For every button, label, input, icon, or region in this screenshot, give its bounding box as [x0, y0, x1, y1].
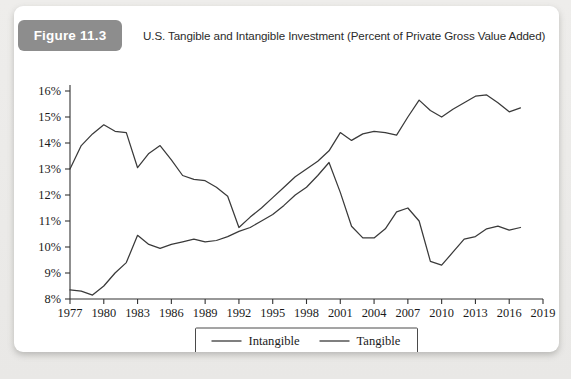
figure-title: U.S. Tangible and Intangible Investment …	[143, 29, 545, 42]
x-axis-tick-label: 2007	[395, 306, 420, 320]
y-axis-tick-label: 15%	[38, 110, 61, 124]
series-line-tangible	[70, 163, 520, 296]
chart-legend: IntangibleTangible	[196, 328, 418, 352]
legend-label-tangible: Tangible	[357, 334, 401, 348]
figure-header: Figure 11.3 U.S. Tangible and Intangible…	[14, 18, 559, 52]
y-axis: 8%9%10%11%12%13%14%15%16%	[38, 84, 70, 306]
x-axis-tick-label: 1986	[159, 306, 184, 320]
y-axis-tick-label: 16%	[38, 84, 61, 98]
x-axis-tick-label: 1989	[193, 306, 218, 320]
x-axis-tick-label: 1992	[227, 306, 252, 320]
y-axis-tick-label: 13%	[38, 162, 61, 176]
figure-card: Figure 11.3 U.S. Tangible and Intangible…	[14, 6, 559, 352]
series-line-intangible	[70, 95, 520, 228]
y-axis-tick-label: 8%	[44, 292, 61, 306]
x-axis-tick-label: 1977	[58, 306, 83, 320]
figure-number-badge: Figure 11.3	[18, 20, 122, 51]
x-axis-tick-label: 2004	[362, 306, 387, 320]
x-axis-tick-label: 1998	[294, 306, 319, 320]
line-chart: 8%9%10%11%12%13%14%15%16% 19771980198319…	[14, 52, 559, 352]
x-axis-tick-label: 1983	[125, 306, 150, 320]
legend-label-intangible: Intangible	[249, 334, 300, 348]
x-axis-tick-label: 1980	[91, 306, 116, 320]
y-axis-tick-label: 11%	[39, 214, 61, 228]
x-axis-tick-label: 2010	[429, 306, 454, 320]
y-axis-tick-label: 9%	[44, 266, 61, 280]
x-axis-tick-label: 2016	[497, 306, 522, 320]
data-series-group	[70, 95, 520, 295]
y-axis-tick-label: 12%	[38, 188, 61, 202]
y-axis-tick-label: 14%	[38, 136, 61, 150]
chart-plot-area: 8%9%10%11%12%13%14%15%16% 19771980198319…	[14, 52, 559, 352]
y-axis-tick-label: 10%	[38, 240, 61, 254]
x-axis-tick-label: 2013	[463, 306, 488, 320]
x-axis-tick-label: 1995	[260, 306, 285, 320]
x-axis-tick-label: 2019	[531, 306, 556, 320]
x-axis-tick-label: 2001	[328, 306, 353, 320]
x-axis: 1977198019831986198919921995199820012004…	[58, 299, 556, 320]
